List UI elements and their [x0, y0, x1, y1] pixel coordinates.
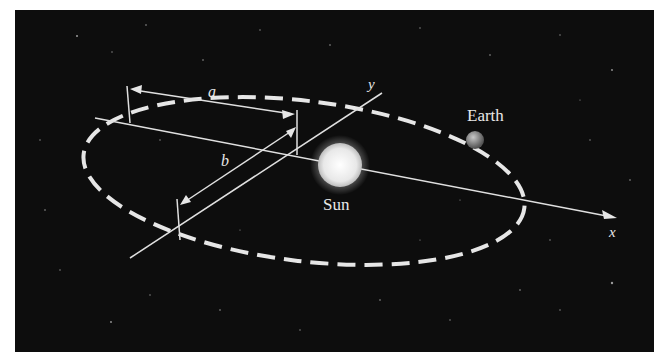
a-arrow-right-icon — [282, 110, 295, 119]
earth-icon — [466, 131, 484, 149]
b-dimension-line — [183, 130, 293, 203]
label-x: x — [608, 224, 616, 240]
sun-icon — [318, 143, 362, 187]
label-a: a — [208, 83, 216, 100]
orbit-ellipse — [74, 75, 534, 288]
b-tick — [177, 199, 180, 240]
label-earth: Earth — [467, 106, 504, 125]
a-left-tick — [127, 86, 130, 123]
orbit-diagram: a b y x Sun Earth — [0, 0, 654, 361]
label-y: y — [366, 76, 375, 92]
label-sun: Sun — [323, 195, 350, 214]
b-arrow-up-icon — [286, 127, 296, 138]
a-arrow-left-icon — [130, 85, 142, 94]
label-b: b — [221, 152, 229, 169]
x-axis-arrowhead-icon — [602, 210, 617, 219]
b-arrow-down-icon — [180, 195, 191, 205]
